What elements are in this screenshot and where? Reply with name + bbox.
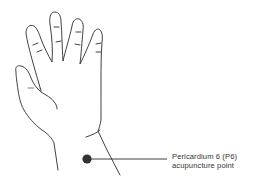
finger-crease bbox=[37, 50, 42, 52]
hand-outline bbox=[16, 12, 120, 175]
finger-crease bbox=[96, 43, 101, 44]
p6-label: Pericardium 6 (P6) acupuncture point bbox=[172, 152, 237, 170]
finger-crease bbox=[75, 44, 80, 45]
finger-crease bbox=[33, 43, 38, 45]
p6-label-line2: acupuncture point bbox=[172, 161, 237, 170]
p6-point-marker bbox=[82, 154, 91, 163]
finger-crease bbox=[56, 41, 61, 42]
p6-label-line1: Pericardium 6 (P6) bbox=[172, 152, 237, 161]
